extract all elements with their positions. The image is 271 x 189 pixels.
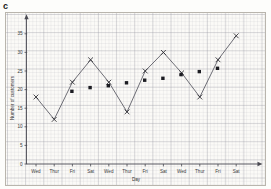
data-point-marker bbox=[125, 81, 128, 84]
y-axis bbox=[24, 14, 28, 164]
data-point-marker bbox=[125, 110, 130, 115]
y-axis-title: Number of customers bbox=[10, 75, 15, 120]
y-axis-tick-labels: 0 5 10 15 20 25 30 35 bbox=[17, 31, 23, 166]
y-tick-label: 30 bbox=[17, 50, 23, 55]
data-point-marker bbox=[198, 70, 201, 73]
y-axis-arrow-icon bbox=[24, 14, 28, 19]
x-tick-label: Wed bbox=[177, 169, 187, 174]
data-point-marker bbox=[216, 57, 221, 62]
series-markers-x bbox=[34, 33, 239, 121]
data-point-marker bbox=[52, 117, 57, 122]
x-tick-label: Wed bbox=[31, 169, 41, 174]
data-point-marker bbox=[216, 67, 219, 70]
data-point-marker bbox=[70, 80, 75, 85]
data-point-marker bbox=[179, 73, 182, 76]
x-axis bbox=[27, 162, 263, 166]
data-point-marker bbox=[234, 33, 239, 38]
data-point-marker bbox=[161, 50, 166, 55]
data-point-marker bbox=[143, 69, 148, 74]
x-tick-label: Fri bbox=[143, 169, 148, 174]
y-tick-label: 5 bbox=[20, 143, 23, 148]
data-point-marker bbox=[88, 86, 91, 89]
data-point-marker bbox=[106, 80, 111, 85]
x-tick-label: Thur bbox=[49, 169, 59, 174]
data-point-marker bbox=[161, 77, 164, 80]
data-point-marker bbox=[88, 57, 93, 62]
y-tick-label: 0 bbox=[20, 162, 23, 167]
x-tick-label: Sat bbox=[87, 169, 95, 174]
x-tick-label: Sat bbox=[233, 169, 241, 174]
x-axis-title: Day bbox=[132, 177, 141, 182]
data-point-marker bbox=[197, 95, 202, 100]
x-tick-label: Sat bbox=[160, 169, 168, 174]
data-point-marker bbox=[34, 95, 39, 100]
y-tick-label: 25 bbox=[17, 69, 23, 74]
x-tick-label: Fri bbox=[215, 169, 220, 174]
x-tick-label: Fri bbox=[70, 169, 75, 174]
x-tick-label: Wed bbox=[104, 169, 114, 174]
series-line-path bbox=[36, 36, 236, 120]
x-axis-tick-labels: Wed Thur Fri Sat Wed Thur Fri Sat Wed Th… bbox=[31, 169, 240, 174]
chart-plot-area: 0 5 10 15 20 25 30 35 bbox=[0, 0, 271, 189]
figure-panel: c 0 5 10 15 20 25 30 35 bbox=[0, 0, 271, 189]
data-point-marker bbox=[70, 90, 73, 93]
series-line-customers bbox=[34, 33, 239, 121]
y-tick-label: 15 bbox=[17, 106, 23, 111]
y-tick-label: 35 bbox=[17, 31, 23, 36]
y-tick-label: 10 bbox=[17, 124, 23, 129]
x-tick-label: Thur bbox=[122, 169, 132, 174]
x-tick-label: Thur bbox=[195, 169, 205, 174]
data-point-marker bbox=[107, 84, 110, 87]
x-axis-arrow-icon bbox=[258, 162, 263, 166]
y-tick-label: 20 bbox=[17, 87, 23, 92]
data-point-marker bbox=[143, 79, 146, 82]
